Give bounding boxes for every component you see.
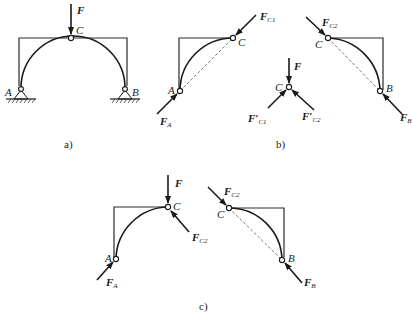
force-arrow-fa (157, 94, 177, 114)
left-piece-ac (157, 15, 256, 114)
force-arrow-fc1 (236, 15, 256, 35)
panel-c: F C FC2 A FA FC2 C B FB c) (97, 175, 316, 313)
label-a: A (104, 252, 112, 264)
label-fc1-prime: F′C1 (247, 112, 267, 126)
label-fc2-right: FC2 (223, 185, 240, 199)
hinge-b (377, 88, 382, 93)
label-c-left: C (173, 200, 181, 212)
hinge-b (279, 257, 284, 262)
caption-c: c) (199, 300, 208, 313)
caption-b: b) (276, 138, 286, 151)
label-f: F (174, 177, 183, 189)
right-piece-cb (306, 17, 402, 114)
label-c-right: C (315, 38, 323, 50)
frame-lines (19, 38, 127, 86)
arch-diagram: F C A B (0, 0, 412, 317)
label-fb: FB (303, 276, 316, 290)
hinge-a (113, 256, 118, 261)
label-c: C (76, 24, 84, 36)
hinge-a (177, 88, 182, 93)
force-arrow-fc2 (171, 211, 189, 232)
label-c-node: C (275, 81, 283, 93)
panel-a: F C A B (4, 4, 140, 151)
label-b: B (288, 252, 295, 264)
label-fb: FB (399, 111, 412, 125)
label-c-left: C (238, 36, 246, 48)
hinge-c (325, 35, 330, 40)
panel-b: FC1 C A FA F C F′C1 F′C2 b) FC2 C B FB (157, 10, 412, 151)
label-a: A (167, 84, 175, 96)
label-a: A (4, 86, 12, 98)
label-f: F (293, 60, 302, 72)
label-fc2-left: FC2 (191, 231, 208, 245)
label-f: F (76, 4, 85, 16)
left-piece-ac-with-pin (97, 175, 189, 280)
label-b: B (386, 82, 393, 94)
hinge-c (165, 204, 170, 209)
hinge-c (68, 35, 73, 40)
force-arrow-fc2-prime (292, 90, 314, 110)
label-c-right: C (217, 208, 225, 220)
label-fc2: FC2 (321, 16, 338, 30)
hinge-c (230, 35, 235, 40)
right-piece-cb (208, 187, 302, 283)
label-fc2-prime: F′C2 (301, 110, 321, 124)
label-fc1: FC1 (259, 10, 276, 24)
label-b: B (132, 86, 139, 98)
label-fa: FA (159, 115, 172, 129)
hinge-c (226, 205, 231, 210)
label-fa: FA (105, 276, 118, 290)
force-arrow-fb (285, 263, 302, 283)
arch-curve (21, 36, 125, 88)
caption-a: a) (64, 138, 73, 151)
